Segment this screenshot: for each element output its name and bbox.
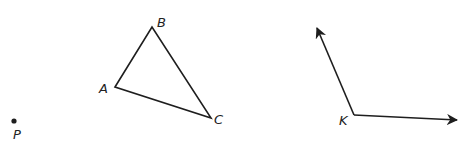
point-p: P <box>11 118 21 142</box>
vertex-a-label: A <box>98 81 108 96</box>
point-p-label: P <box>13 127 21 142</box>
geometry-diagram: P A B C K <box>0 0 460 151</box>
triangle-abc-outline <box>115 27 211 118</box>
triangle-abc: A B C <box>98 15 224 127</box>
angle-k-ray-up <box>317 28 354 115</box>
vertex-k-label: K <box>339 113 349 128</box>
vertex-c-label: C <box>214 112 224 127</box>
point-p-dot <box>11 118 16 123</box>
angle-k-ray-right <box>354 115 457 120</box>
angle-k: K <box>317 28 457 128</box>
vertex-b-label: B <box>157 15 166 30</box>
